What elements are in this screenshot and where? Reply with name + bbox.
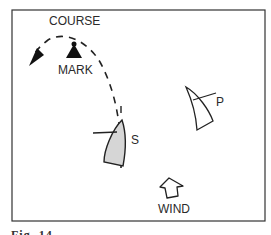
boat-p-label: P (216, 95, 224, 109)
mark-buoy-icon (66, 42, 82, 59)
wind-arrow-icon (160, 178, 183, 198)
sailing-diagram: COURSE MARK S P WIND (0, 0, 271, 235)
diagram-frame (12, 10, 265, 221)
wind-label: WIND (158, 202, 190, 216)
course-arrow-icon (29, 48, 44, 66)
course-label: COURSE (49, 14, 100, 28)
mark-label: MARK (58, 63, 93, 77)
boat-s-label: S (131, 133, 139, 147)
boat-p-icon (186, 87, 216, 130)
boat-s-icon (93, 106, 125, 166)
figure-caption: Fig. 14 (11, 228, 53, 235)
